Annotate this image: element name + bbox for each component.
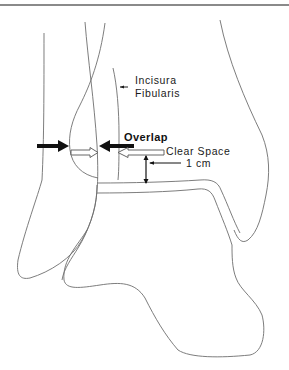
- talus-outline: [64, 230, 264, 357]
- talar-dome-lower: [97, 189, 232, 245]
- incisura-leader-arrowhead: [120, 86, 124, 89]
- fibula-lateral-edge: [18, 33, 98, 278]
- tibia-medial-outline: [220, 20, 269, 242]
- one-cm-measure: [144, 155, 149, 184]
- ankle-diagram: Incisura Fibularis Overlap Clear Space 1…: [0, 0, 289, 370]
- tibial-plafond-upper: [98, 180, 240, 233]
- overlap-arrow-left-icon: [37, 140, 69, 152]
- one-cm-label: 1 cm: [186, 157, 211, 169]
- incisura-label-line1: Incisura: [135, 74, 177, 86]
- clear-space-arrow-right-icon: [118, 148, 164, 158]
- incisura-fibularis-curve: [113, 68, 119, 180]
- incisura-label-line2: Fibularis: [135, 87, 180, 99]
- one-cm-leader-arrowhead: [149, 161, 154, 164]
- clear-space-arrow-left-icon: [71, 148, 98, 158]
- overlap-label: Overlap: [124, 131, 168, 143]
- clear-space-label: Clear Space: [166, 145, 230, 157]
